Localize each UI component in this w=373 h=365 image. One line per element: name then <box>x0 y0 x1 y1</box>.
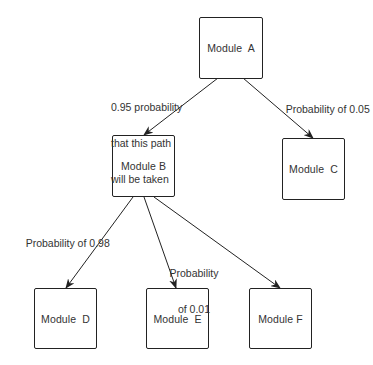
edge-label-a-to-b-line3: will be taken <box>111 173 182 185</box>
edge-label-a-to-b-line2: that this path <box>111 137 182 149</box>
module-f-box: Module F <box>249 288 312 349</box>
edge-label-a-to-b-line1: 0.95 probability <box>111 101 182 113</box>
module-d-label: Module D <box>41 313 90 325</box>
module-c-box: Module C <box>282 138 345 200</box>
edge-label-a-to-c: Probability of 0.05 <box>274 91 370 127</box>
module-probability-diagram: Module A Module B Module C Module D Modu… <box>0 0 373 365</box>
edge-label-b-to-d: Probability of 0.98 <box>14 225 110 261</box>
edge-label-b-to-e: Probability of 0.01 <box>164 243 224 339</box>
module-a-label: Module A <box>207 42 255 54</box>
edge-label-b-to-e-line2: of 0.01 <box>164 303 224 315</box>
edge-label-a-to-c-text: Probability of 0.05 <box>286 103 370 115</box>
edge-label-a-to-b: 0.95 probability that this path will be … <box>111 77 182 209</box>
module-d-box: Module D <box>34 288 97 349</box>
module-f-label: Module F <box>258 313 303 325</box>
module-c-label: Module C <box>289 163 338 175</box>
edge-label-b-to-d-text: Probability of 0.98 <box>26 237 110 249</box>
edge-label-b-to-e-line1: Probability <box>164 267 224 279</box>
module-a-box: Module A <box>199 17 263 79</box>
